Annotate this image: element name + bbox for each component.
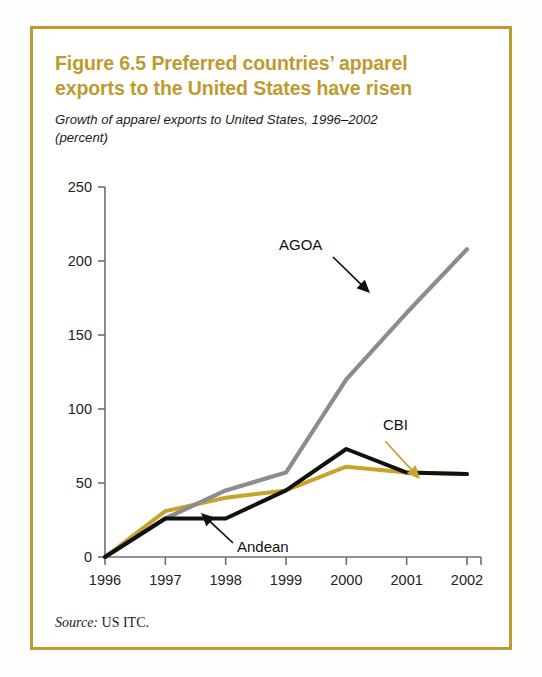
data-series-group <box>105 249 467 557</box>
agoa-arrow-shaft <box>333 257 363 286</box>
x-tick-label: 1996 <box>89 572 121 588</box>
y-tick-label: 0 <box>84 549 92 565</box>
series-annotations: AGOACBIAndean <box>201 236 420 555</box>
y-tick-label: 150 <box>68 327 92 343</box>
figure-frame: Figure 6.5 Preferred countries’ apparel … <box>30 26 512 650</box>
x-tick-label: 1998 <box>210 572 242 588</box>
x-tick-label: 2000 <box>330 572 362 588</box>
annotation-label-cbi: CBI <box>383 416 408 433</box>
andean-arrow-shaft <box>208 520 233 543</box>
y-tick-label: 50 <box>76 475 92 491</box>
source-note: Source: US ITC. <box>55 615 149 631</box>
line-chart: 050100150200250 199619971998199920002001… <box>33 29 515 653</box>
series-line-agoa <box>105 249 467 557</box>
y-tick-label: 250 <box>68 179 92 195</box>
source-value: US ITC. <box>98 615 149 630</box>
x-tick-label: 1997 <box>149 572 181 588</box>
y-axis-labels: 050100150200250 <box>68 179 92 565</box>
y-tick-label: 200 <box>68 253 92 269</box>
chart-area: 050100150200250 199619971998199920002001… <box>33 29 515 653</box>
annotation-label-andean: Andean <box>237 538 289 555</box>
x-tick-label: 2001 <box>391 572 423 588</box>
source-label: Source: <box>55 615 98 630</box>
x-tick-label: 2002 <box>451 572 483 588</box>
y-axis-ticks <box>98 187 105 557</box>
y-tick-label: 100 <box>68 401 92 417</box>
figure-page: Figure 6.5 Preferred countries’ apparel … <box>0 0 542 677</box>
x-axis-labels: 1996199719981999200020012002 <box>89 572 483 588</box>
x-axis-ticks <box>105 557 481 565</box>
annotation-label-agoa: AGOA <box>279 236 322 253</box>
x-tick-label: 1999 <box>270 572 302 588</box>
